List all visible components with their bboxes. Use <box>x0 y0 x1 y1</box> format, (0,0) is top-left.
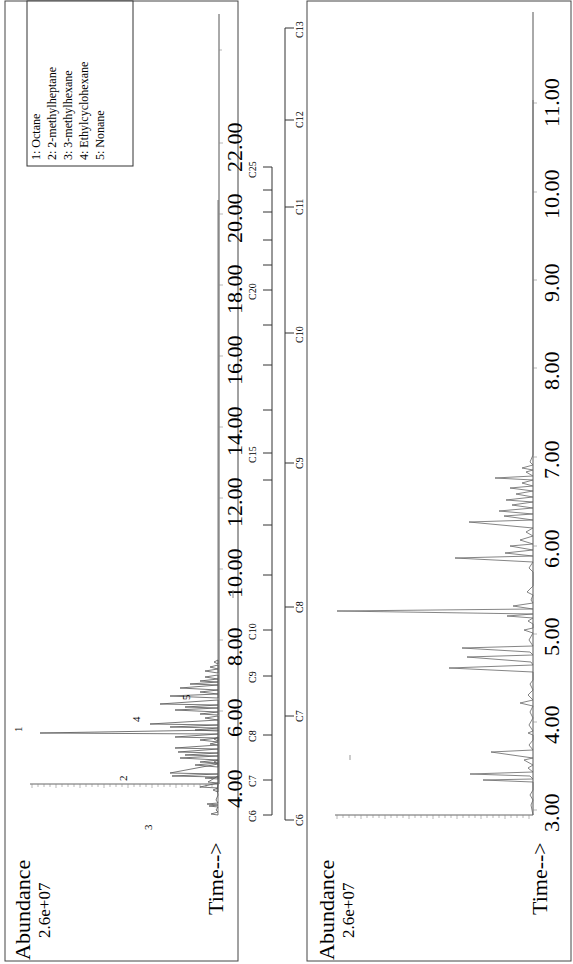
bottom-time-tick-labels: 3.00 4.00 5.00 6.00 7.00 8.00 9.00 10.00… <box>539 78 564 832</box>
top-tick: 16.00 <box>222 336 247 386</box>
top-tick: 20.00 <box>222 194 247 244</box>
carbon-label: C7 <box>294 710 305 722</box>
top-tick: 4.00 <box>222 770 247 809</box>
carbon-label: C10 <box>294 326 305 343</box>
peak-label-5: 5 <box>180 694 192 700</box>
carbon-label: C25 <box>247 161 258 178</box>
chromatogram-figure: 1: Octane 2: 2-methylheptane 3: 3-methyl… <box>0 0 573 964</box>
bottom-tick: 7.00 <box>539 441 564 480</box>
top-tick: 10.00 <box>222 549 247 599</box>
carbon-label: C15 <box>247 446 258 463</box>
bottom-y-max-label: 2.6e+07 <box>339 882 358 938</box>
carbon-label: C20 <box>247 283 258 300</box>
carbon-label: C9 <box>294 457 305 469</box>
legend-item-4: 4: Ethylcyclohexane <box>77 62 91 160</box>
top-chromatogram-trace <box>40 200 218 815</box>
bottom-time-minor-ticks <box>533 103 537 810</box>
bottom-tick: 3.00 <box>539 794 564 833</box>
legend-item-2: 2: 2-methylheptane <box>45 67 59 160</box>
bottom-tick: 10.00 <box>539 170 564 220</box>
carbon-label: C7 <box>247 775 258 787</box>
bottom-abundance-ticks <box>337 815 529 819</box>
top-tick: 18.00 <box>222 265 247 315</box>
carbon-label: C13 <box>294 21 305 38</box>
carbon-label: C10 <box>247 623 258 640</box>
top-carbon-labels: C6 C7 C8 C9 C10 C15 C20 C25 <box>247 161 258 822</box>
legend-item-1: 1: Octane <box>29 114 43 160</box>
top-y-max-label: 2.6e+07 <box>35 882 54 938</box>
carbon-label: C6 <box>294 814 305 826</box>
top-peak-labels: 1 2 3 4 5 <box>12 694 192 830</box>
peak-label-3: 3 <box>142 824 154 830</box>
legend-item-3: 3: 3-methylhexane <box>61 70 75 160</box>
top-time-tick-labels: 4.00 6.00 8.00 10.00 12.00 14.00 16.00 1… <box>222 123 247 809</box>
top-x-axis-label: Time--> <box>203 842 228 915</box>
bottom-tick: 9.00 <box>539 264 564 303</box>
bottom-tick: 8.00 <box>539 352 564 391</box>
carbon-label: C8 <box>294 601 305 613</box>
top-tick: 12.00 <box>222 478 247 528</box>
top-abundance-ticks <box>32 784 212 788</box>
top-tick: 8.00 <box>222 628 247 667</box>
bottom-tick: 5.00 <box>539 618 564 657</box>
bottom-tick: 4.00 <box>539 706 564 745</box>
bottom-carbon-ticks <box>285 28 294 820</box>
peak-label-4: 4 <box>130 716 142 722</box>
top-y-axis-label: Abundance <box>10 860 35 960</box>
carbon-label: C11 <box>294 199 305 215</box>
bottom-x-axis-label: Time--> <box>527 842 552 915</box>
top-tick: 22.00 <box>222 123 247 173</box>
top-tick: 14.00 <box>222 407 247 457</box>
top-carbon-ticks <box>263 167 272 815</box>
carbon-label: C6 <box>247 810 258 822</box>
bottom-chromatogram-trace <box>337 100 533 815</box>
bottom-y-axis-label: Abundance <box>314 860 339 960</box>
bottom-carbon-labels: C6 C7 C8 C9 C10 C11 C12 C13 <box>294 21 305 826</box>
carbon-label: C9 <box>247 671 258 683</box>
carbon-label: C12 <box>294 111 305 128</box>
bottom-tick: 11.00 <box>539 78 564 127</box>
peak-label-2: 2 <box>117 776 129 782</box>
bottom-tick: 6.00 <box>539 530 564 569</box>
top-tick: 6.00 <box>222 699 247 738</box>
carbon-label: C8 <box>247 730 258 742</box>
legend-item-5: 5: Nonane <box>93 110 107 160</box>
peak-label-1: 1 <box>12 727 24 733</box>
